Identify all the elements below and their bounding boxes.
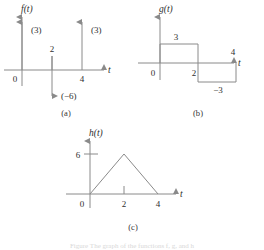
xtick-label-2-c: 2 [122,199,127,209]
chart-g-of-t: g(t) t 3 −3 0 2 4 [132,0,264,125]
figure-panel-c: h(t) t 6 0 2 4 (c) [58,122,208,240]
panel-caption-c: (c) [58,222,208,232]
amplitude-label-t0: (3) [31,25,42,35]
xtick-label-2-a: 2 [50,44,55,54]
amplitude-label-t2: (−6) [61,91,77,101]
xtick-label-4-a: 4 [80,74,85,84]
axis-label-t-c: t [180,189,183,199]
amplitude-label-t4: (3) [91,25,102,35]
ytick-label-6: 6 [76,150,81,160]
level-label-negative: −3 [213,85,223,95]
axis-label-t-a: t [108,65,111,75]
xtick-label-4-c: 4 [156,199,161,209]
figure-panel-a: f(t) t (3) (−6) (3) 0 2 4 (a) [0,0,132,125]
axis-label-h-of-t: h(t) [89,128,103,139]
xtick-label-0-c: 0 [80,199,85,209]
figure-bottom-caption: Figure The graph of the functions f, g, … [0,242,264,250]
axis-label-t-b: t [238,58,241,68]
xtick-label-0-a: 0 [13,74,18,84]
axis-label-g-of-t: g(t) [159,4,173,15]
figure-panel-b: g(t) t 3 −3 0 2 4 (b) [132,0,264,125]
level-label-positive: 3 [174,32,179,42]
axis-label-f-of-t: f(t) [21,4,33,15]
xtick-label-0-b: 0 [151,68,156,78]
panel-caption-b: (b) [132,108,264,118]
xtick-label-4-b: 4 [231,47,236,57]
panel-caption-a: (a) [0,108,132,118]
xtick-label-2-b: 2 [192,68,197,78]
chart-f-of-t: f(t) t (3) (−6) (3) 0 2 4 [0,0,132,125]
